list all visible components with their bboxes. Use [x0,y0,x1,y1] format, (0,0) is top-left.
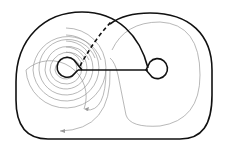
surface-flow-diagram [0,0,226,149]
spiral-flow-lines [26,22,200,131]
right-loop [146,59,167,79]
dashed-arc [80,22,111,66]
outer-boundary [16,12,212,139]
